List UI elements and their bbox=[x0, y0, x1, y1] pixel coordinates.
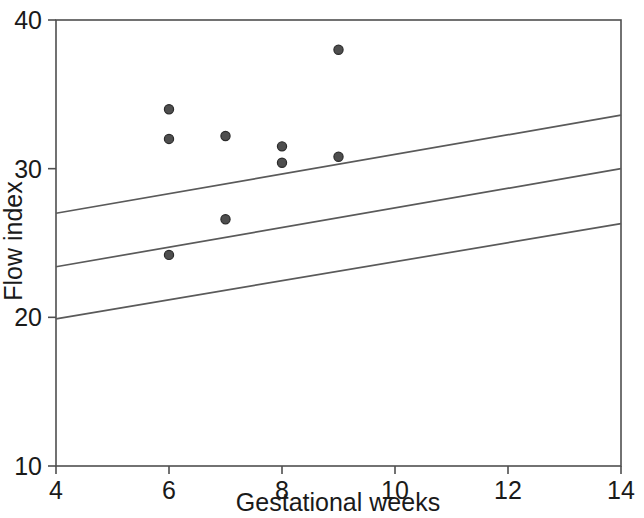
scatter-point bbox=[277, 158, 286, 167]
x-tick-label: 4 bbox=[49, 476, 63, 504]
scatter-point bbox=[221, 131, 230, 140]
y-tick-label: 40 bbox=[14, 6, 42, 34]
scatter-point bbox=[277, 142, 286, 151]
scatter-point bbox=[334, 152, 343, 161]
x-axis-tick-marks bbox=[56, 466, 621, 474]
regression-line bbox=[56, 169, 621, 267]
regression-line bbox=[56, 224, 621, 319]
scatter-point bbox=[164, 250, 173, 259]
y-axis-tick-marks bbox=[48, 20, 56, 466]
scatter-point bbox=[164, 134, 173, 143]
scatter-points-group bbox=[164, 45, 343, 259]
y-tick-label: 20 bbox=[14, 303, 42, 331]
plot-frame bbox=[56, 20, 621, 466]
x-tick-label: 12 bbox=[494, 476, 522, 504]
x-axis-title: Gestational weeks bbox=[236, 488, 440, 516]
scatter-point bbox=[221, 215, 230, 224]
y-tick-label: 10 bbox=[14, 452, 42, 480]
x-tick-label: 14 bbox=[607, 476, 635, 504]
y-tick-label: 30 bbox=[14, 155, 42, 183]
scatter-point bbox=[164, 105, 173, 114]
chart-figure: 468101214 10203040 Gestational weeks Flo… bbox=[0, 0, 644, 518]
regression-line bbox=[56, 115, 621, 213]
x-tick-label: 6 bbox=[162, 476, 176, 504]
scatter-point bbox=[334, 45, 343, 54]
scatter-plot-svg: 468101214 10203040 Gestational weeks Flo… bbox=[0, 0, 644, 518]
y-axis-title: Flow index bbox=[0, 181, 27, 301]
regression-lines-group bbox=[56, 115, 621, 319]
